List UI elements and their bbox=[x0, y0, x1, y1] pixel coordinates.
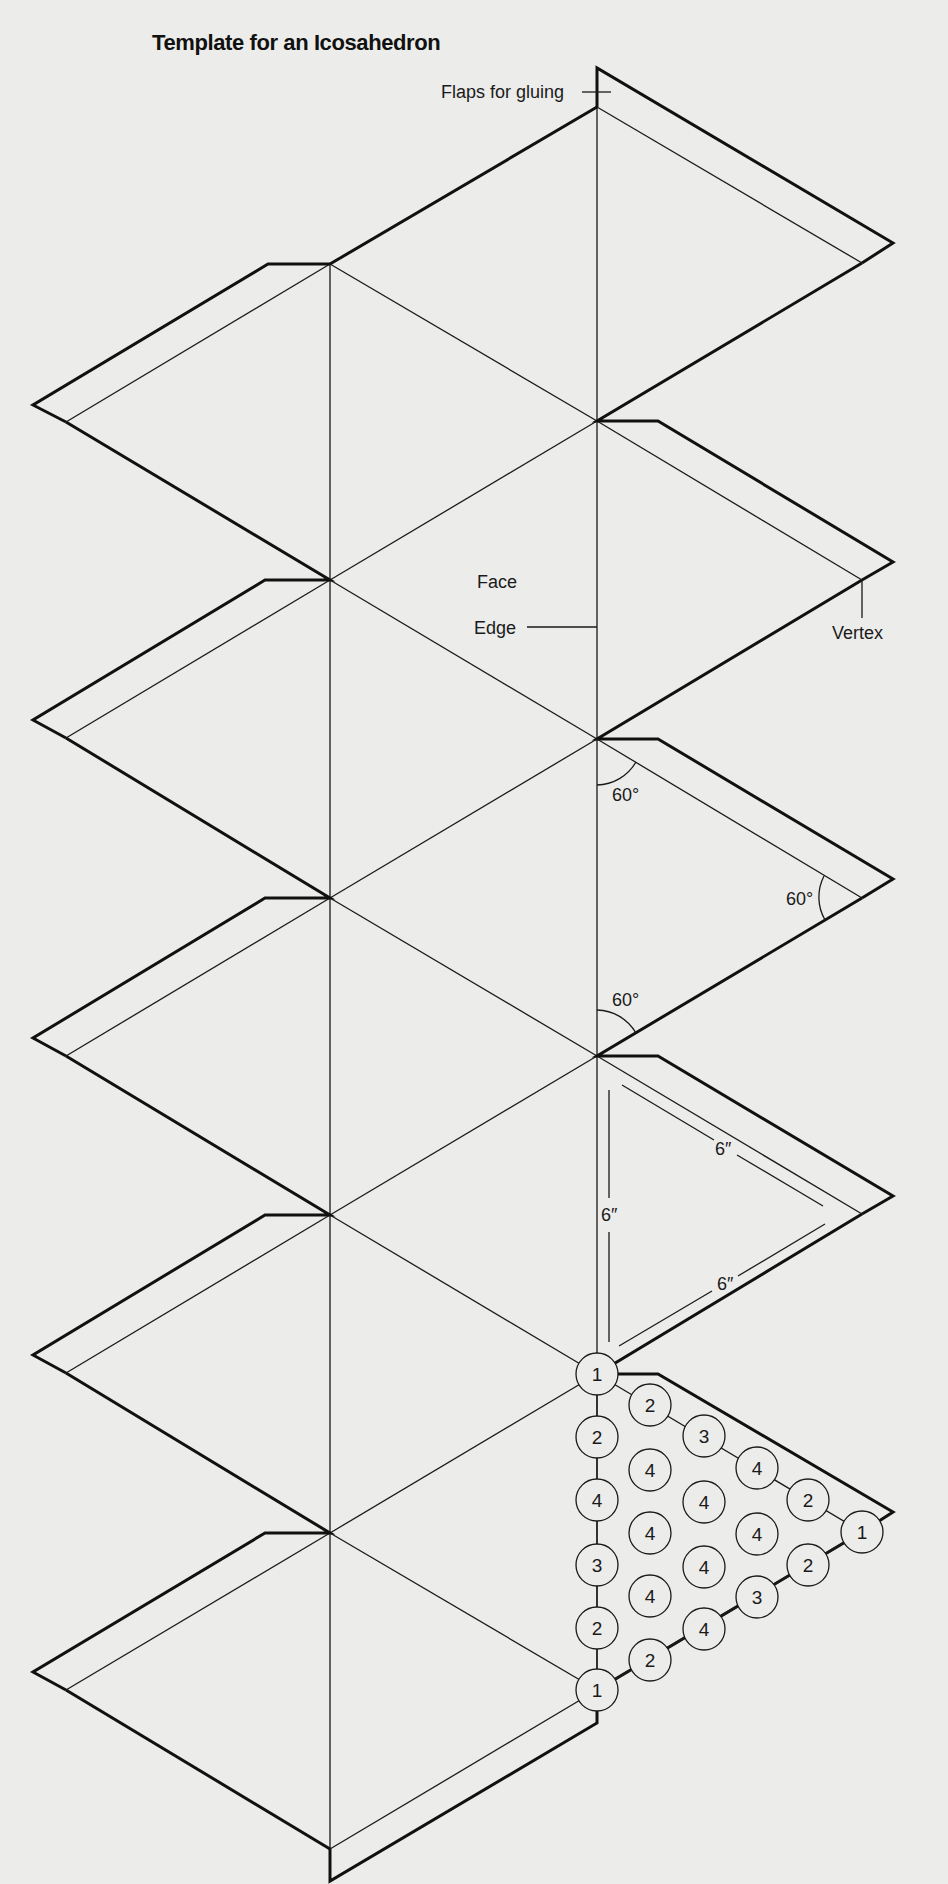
vertex-label: Vertex bbox=[832, 624, 883, 642]
gluing-circle-bottom-diagonal: 3 bbox=[736, 1576, 778, 1618]
gluing-circle-interior: 4 bbox=[736, 1513, 778, 1555]
svg-text:4: 4 bbox=[645, 1460, 656, 1481]
gluing-circle-left-column: 2 bbox=[576, 1416, 618, 1458]
svg-text:3: 3 bbox=[699, 1426, 710, 1447]
gluing-order-circles: 124321234212432444444 bbox=[576, 1353, 883, 1711]
svg-text:4: 4 bbox=[699, 1619, 710, 1640]
gluing-circle-interior: 4 bbox=[629, 1512, 671, 1554]
flaps-label: Flaps for gluing bbox=[441, 83, 564, 101]
face-label: Face bbox=[477, 573, 517, 591]
svg-text:4: 4 bbox=[752, 1524, 763, 1545]
gluing-circle-left-column: 4 bbox=[576, 1479, 618, 1521]
gluing-circle-top-diagonal: 2 bbox=[787, 1479, 829, 1521]
angle-label-3: 60° bbox=[612, 991, 639, 1009]
angle-label-2: 60° bbox=[786, 890, 813, 908]
dimension-lines bbox=[609, 1085, 825, 1346]
template-drawing: 124321234212432444444 bbox=[0, 0, 948, 1884]
gluing-circle-left-column: 1 bbox=[576, 1669, 618, 1711]
svg-text:2: 2 bbox=[645, 1650, 656, 1671]
svg-text:1: 1 bbox=[857, 1522, 868, 1543]
leader-lines bbox=[527, 92, 862, 627]
svg-text:4: 4 bbox=[645, 1586, 656, 1607]
svg-text:4: 4 bbox=[592, 1490, 603, 1511]
gluing-circle-top-diagonal: 1 bbox=[841, 1511, 883, 1553]
angle-label-1: 60° bbox=[612, 786, 639, 804]
svg-text:1: 1 bbox=[592, 1680, 603, 1701]
svg-text:4: 4 bbox=[752, 1458, 763, 1479]
svg-text:4: 4 bbox=[645, 1523, 656, 1544]
gluing-circle-top-diagonal: 4 bbox=[736, 1447, 778, 1489]
gluing-circle-interior: 4 bbox=[629, 1449, 671, 1491]
gluing-circle-interior: 4 bbox=[683, 1546, 725, 1588]
svg-text:2: 2 bbox=[592, 1427, 603, 1448]
dimension-label-lower: 6″ bbox=[717, 1275, 733, 1293]
gluing-circle-top-diagonal: 3 bbox=[683, 1415, 725, 1457]
svg-text:2: 2 bbox=[592, 1618, 603, 1639]
gluing-circle-bottom-diagonal: 2 bbox=[787, 1544, 829, 1586]
svg-text:4: 4 bbox=[699, 1557, 710, 1578]
svg-text:2: 2 bbox=[803, 1490, 814, 1511]
gluing-circle-left-column: 3 bbox=[576, 1544, 618, 1586]
svg-text:1: 1 bbox=[592, 1364, 603, 1385]
icosahedron-template: Template for an Icosahedron bbox=[0, 0, 948, 1884]
svg-text:4: 4 bbox=[699, 1492, 710, 1513]
svg-text:2: 2 bbox=[803, 1555, 814, 1576]
gluing-circle-bottom-diagonal: 2 bbox=[629, 1639, 671, 1681]
gluing-circle-interior: 4 bbox=[629, 1575, 671, 1617]
dimension-label-upper: 6″ bbox=[715, 1140, 731, 1158]
dimension-label-vertical: 6″ bbox=[601, 1206, 617, 1224]
edge-label: Edge bbox=[474, 619, 516, 637]
svg-text:2: 2 bbox=[645, 1395, 656, 1416]
gluing-circle-left-column: 1 bbox=[576, 1353, 618, 1395]
gluing-circle-top-diagonal: 2 bbox=[629, 1384, 671, 1426]
svg-text:3: 3 bbox=[752, 1587, 763, 1608]
gluing-circle-interior: 4 bbox=[683, 1481, 725, 1523]
gluing-circle-bottom-diagonal: 4 bbox=[683, 1608, 725, 1650]
svg-text:3: 3 bbox=[592, 1555, 603, 1576]
gluing-circle-left-column: 2 bbox=[576, 1607, 618, 1649]
